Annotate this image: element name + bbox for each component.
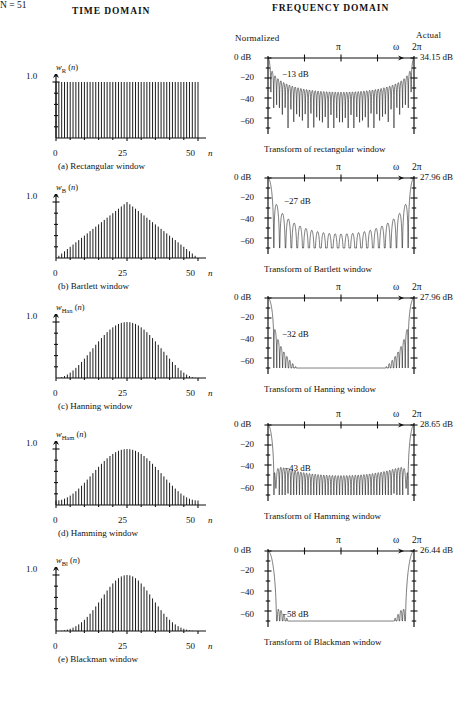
frequency-domain-caption-hanning: Transform of Hanning window — [264, 384, 376, 394]
time-x-tick-50: 50 — [186, 148, 195, 158]
time-domain-caption-rectangular: (a) Rectangular window — [58, 161, 145, 171]
time-y-tick-label-1: 1.0 — [26, 71, 37, 81]
fn-subscript: R — [62, 67, 66, 74]
time-x-axis-variable: n — [208, 268, 213, 278]
freq-top-label-pi: π — [336, 409, 341, 419]
freq-y-label-0db: 0 dB — [234, 172, 251, 182]
frequency-domain-plot-svg — [258, 52, 424, 140]
time-x-axis-variable: n — [208, 388, 213, 398]
time-domain-panel-bartlett: wB (n)1.002550n(b) Bartlett window — [18, 182, 228, 294]
time-axis-function-label: wHan (n) — [56, 302, 85, 314]
freq-top-label-2pi: 2π — [412, 409, 422, 419]
freq-peak-value-bartlett: 27.96 dB — [420, 172, 453, 182]
freq-peak-value-rectangular: 34.15 dB — [420, 52, 453, 62]
fn-arg-var: n — [71, 62, 75, 72]
fn-arg-var: n — [73, 555, 77, 565]
time-domain-plot-svg — [48, 74, 206, 146]
time-domain-caption-hanning: (c) Hanning window — [58, 401, 132, 411]
freq-y-label-minus20: −20 — [240, 565, 254, 575]
time-x-tick-50: 50 — [186, 388, 195, 398]
time-domain-plot-hanning — [48, 314, 206, 386]
time-domain-plot-bartlett — [48, 194, 206, 266]
time-domain-caption-bartlett: (b) Bartlett window — [58, 281, 129, 291]
time-domain-panel-rectangular: wR (n)1.002550n(a) Rectangular window — [18, 62, 228, 174]
freq-peak-value-hamming: 28.65 dB — [420, 419, 453, 429]
frequency-domain-panel-blackman: πω2π0 dB−20−40−6026.44 dB−58 dBTransform… — [236, 527, 463, 657]
freq-y-label-0db: 0 dB — [234, 419, 251, 429]
time-x-tick-50: 50 — [186, 515, 195, 525]
fn-arg: (n) — [68, 62, 78, 72]
time-domain-plot-rectangular — [48, 74, 206, 146]
time-x-axis-variable: n — [208, 641, 213, 651]
freq-top-label-omega: ω — [393, 409, 399, 419]
freq-y-label-minus20: −20 — [240, 72, 254, 82]
frequency-domain-caption-hamming: Transform of Hamming window — [264, 511, 381, 521]
freq-peak-value-hanning: 27.96 dB — [420, 292, 453, 302]
time-x-tick-50: 50 — [186, 641, 195, 651]
time-y-tick-label-1: 1.0 — [26, 311, 37, 321]
time-axis-function-label: wB (n) — [56, 182, 78, 194]
frequency-domain-plot-bartlett — [258, 172, 424, 260]
time-domain-panel-hamming: wHam (n)1.002550n(d) Hamming window — [18, 429, 228, 541]
freq-y-label-minus40: −40 — [240, 94, 254, 104]
frequency-domain-plot-rectangular — [258, 52, 424, 140]
frequency-domain-header: FREQUENCY DOMAIN — [272, 3, 389, 13]
fn-subscript: Bl — [62, 560, 68, 567]
freq-y-label-minus20: −20 — [240, 312, 254, 322]
fn-arg: (n) — [75, 302, 85, 312]
time-domain-plot-blackman — [48, 567, 206, 639]
freq-y-label-minus60: −60 — [240, 609, 254, 619]
freq-top-label-omega: ω — [393, 282, 399, 292]
time-x-tick-50: 50 — [186, 268, 195, 278]
freq-y-label-minus20: −20 — [240, 439, 254, 449]
freq-top-label-pi: π — [336, 282, 341, 292]
freq-y-label-0db: 0 dB — [234, 545, 251, 555]
freq-y-label-minus60: −60 — [240, 356, 254, 366]
time-y-tick-label-1: 1.0 — [26, 564, 37, 574]
frequency-domain-caption-blackman: Transform of Blackman window — [264, 637, 381, 647]
freq-y-label-minus40: −40 — [240, 334, 254, 344]
freq-top-label-pi: π — [336, 42, 341, 52]
freq-top-label-omega: ω — [393, 162, 399, 172]
time-x-tick-0: 0 — [53, 268, 58, 278]
time-x-tick-25: 25 — [118, 148, 127, 158]
time-x-tick-25: 25 — [118, 268, 127, 278]
time-x-tick-0: 0 — [53, 641, 58, 651]
time-domain-header: TIME DOMAIN — [72, 6, 150, 16]
time-x-tick-0: 0 — [53, 148, 58, 158]
time-domain-plot-svg — [48, 194, 206, 266]
time-domain-plot-hamming — [48, 441, 206, 513]
fn-subscript: Ham — [62, 434, 75, 441]
fn-subscript: B — [62, 187, 66, 194]
frequency-domain-panel-rectangular: πω2π0 dB−20−40−6034.15 dB−13 dBTransform… — [236, 34, 463, 164]
time-domain-plot-svg — [48, 441, 206, 513]
time-x-tick-25: 25 — [118, 515, 127, 525]
time-domain-caption-hamming: (d) Hamming window — [58, 528, 138, 538]
n-value-label: N = 51 — [0, 0, 463, 10]
freq-y-label-minus60: −60 — [240, 116, 254, 126]
n-value-text: N = 51 — [0, 0, 26, 10]
fn-arg-var: n — [79, 429, 83, 439]
time-x-axis-variable: n — [208, 515, 213, 525]
frequency-domain-caption-bartlett: Transform of Bartlett window — [264, 264, 372, 274]
freq-top-label-2pi: 2π — [412, 535, 422, 545]
frequency-domain-panel-bartlett: πω2π0 dB−20−40−6027.96 dB−27 dBTransform… — [236, 154, 463, 284]
freq-sidelobe-value-hanning: −32 dB — [282, 329, 309, 339]
time-y-tick-label-1: 1.0 — [26, 191, 37, 201]
freq-top-label-pi: π — [336, 162, 341, 172]
freq-y-label-minus20: −20 — [240, 192, 254, 202]
freq-y-label-0db: 0 dB — [234, 292, 251, 302]
time-domain-plot-svg — [48, 567, 206, 639]
freq-y-label-minus60: −60 — [240, 236, 254, 246]
fn-arg: (n) — [70, 555, 80, 565]
fn-arg-var: n — [71, 182, 75, 192]
frequency-domain-caption-rectangular: Transform of rectangular window — [264, 144, 385, 154]
time-x-tick-25: 25 — [118, 388, 127, 398]
freq-peak-value-blackman: 26.44 dB — [420, 545, 453, 555]
frequency-domain-plot-hamming — [258, 419, 424, 507]
fn-arg: (n) — [76, 429, 86, 439]
time-domain-panel-blackman: wBl (n)1.002550n(e) Blackman window — [18, 555, 228, 667]
time-domain-panel-hanning: wHan (n)1.002550n(c) Hanning window — [18, 302, 228, 414]
freq-y-label-minus40: −40 — [240, 587, 254, 597]
freq-sidelobe-value-blackman: −58 dB — [282, 609, 309, 619]
